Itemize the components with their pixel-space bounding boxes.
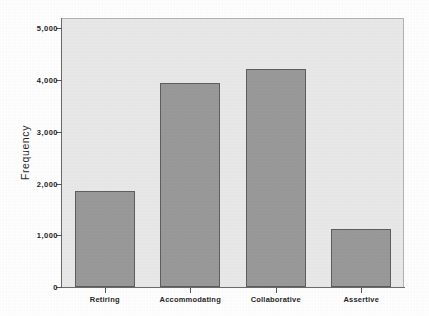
x-axis-tick-mark — [190, 288, 191, 293]
x-axis-category-label: Accommodating — [160, 295, 221, 304]
x-axis-tick-mark — [276, 288, 277, 293]
x-axis-category-labels: RetiringAccommodatingCollaborativeAssert… — [62, 295, 404, 309]
x-axis-category-label: Retiring — [90, 295, 120, 304]
x-axis-tick-mark — [361, 288, 362, 293]
y-axis-title: Frequency — [16, 18, 34, 287]
x-axis-category-label: Assertive — [343, 295, 379, 304]
bar — [160, 83, 220, 287]
bar — [75, 191, 135, 287]
x-axis-tick-marks — [62, 288, 404, 294]
bars-layer — [62, 18, 404, 287]
x-axis-tick-mark — [105, 288, 106, 293]
x-axis-category-label: Collaborative — [251, 295, 301, 304]
bar — [246, 69, 306, 287]
bar — [331, 229, 391, 287]
bar-chart: 01,0002,0003,0004,0005,000 RetiringAccom… — [0, 0, 429, 316]
